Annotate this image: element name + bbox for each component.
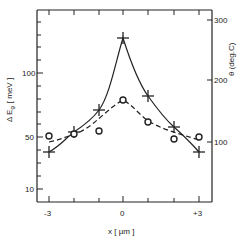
y-left-title-sub: g: [9, 106, 15, 109]
circle-marker: [171, 136, 177, 142]
y-right-title-text: θ (deg.C): [227, 42, 236, 76]
y-left-tick-label-10: 10: [25, 185, 34, 194]
circle-marker: [46, 133, 52, 139]
circle-marker: [96, 128, 102, 134]
x-tick-label-plus3: +3: [193, 209, 203, 218]
cross-marker: [142, 90, 154, 102]
y-left-ticks: [37, 22, 43, 189]
cross-marker: [93, 104, 105, 116]
cross-marker: [117, 32, 129, 44]
circle-marker: [145, 119, 151, 125]
y-right-axis-title: θ (deg.C): [227, 42, 236, 76]
x-axis-title: x [ µm ]: [108, 227, 134, 236]
y-right-ticks: [207, 20, 212, 142]
y-left-title-unit: [ meV ]: [5, 78, 14, 103]
y-left-title-main: Δ E: [5, 110, 14, 122]
delta-eg-markers: [43, 32, 205, 158]
y-right-tick-label-300: 300: [214, 16, 228, 25]
plot-frame: [37, 10, 212, 202]
y-left-tick-label-100: 100: [22, 69, 36, 78]
x-tick-label-minus3: -3: [44, 209, 52, 218]
y-left-tick-label-50: 50: [25, 133, 34, 142]
x-ticks: [49, 10, 199, 202]
cross-marker: [43, 146, 55, 158]
circle-marker: [71, 131, 77, 137]
chart: -3 0 +3 100 50 10 300 200 100 x [ µm ] Δ…: [0, 0, 241, 239]
x-tick-label-0: 0: [120, 209, 125, 218]
svg-text:Δ Eg[ meV ]: Δ Eg[ meV ]: [5, 78, 15, 122]
circle-marker: [196, 134, 202, 140]
y-right-tick-label-200: 200: [214, 76, 228, 85]
y-left-axis-title: Δ Eg[ meV ]: [5, 78, 15, 122]
circle-marker: [120, 97, 126, 103]
y-right-tick-label-100: 100: [214, 138, 228, 147]
